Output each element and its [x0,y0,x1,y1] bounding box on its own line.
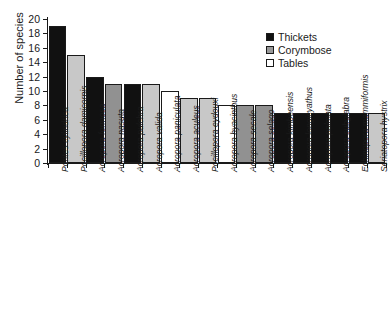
y-axis-tick [43,33,47,34]
chart-legend: ThicketsCorymboseTables [266,31,332,70]
x-axis-tick-label: Pocillopora eydouxi [211,97,220,172]
y-axis-tick [43,149,47,150]
x-axis-tick-label: Acropora pulchra [136,107,145,172]
y-axis-tick-label: 18 [16,28,40,39]
y-axis-tick [43,19,47,20]
legend-label: Tables [278,58,308,69]
y-axis-tick [43,48,47,49]
y-axis-tick-label: 4 [16,129,40,140]
x-axis-tick-label: Echinopora mammiformis [361,75,370,172]
legend-label: Corymbose [278,45,332,56]
x-axis-tick-label: Acropora valida [155,112,164,172]
x-axis-tick-label: Acropora paniculata [173,96,182,172]
x-axis-tick-label: Acropora longicyathus [305,87,314,172]
y-axis-tick [43,120,47,121]
y-axis-tick [43,62,47,63]
x-axis-tick-label: Pocillopora damicornis [80,86,89,172]
y-axis-tick-label: 16 [16,43,40,54]
x-axis-tick-label: Acropora kimbeensis [286,92,295,172]
x-axis-tick-label: Seriatopora hystrix [380,100,389,172]
y-axis-tick-label: 20 [16,14,40,25]
y-axis-tick [43,105,47,106]
legend-label: Thickets [278,32,317,43]
x-axis-tick-label: Acropora secale [249,110,258,172]
y-axis-tick-label: 6 [16,115,40,126]
legend-swatch-icon [266,59,274,67]
y-axis-tick-label: 2 [16,144,40,155]
x-axis-tick-label: Acropora palmata [324,104,333,172]
x-axis-tick-label: Acropora selago [267,109,276,172]
y-axis-tick [43,91,47,92]
x-axis-tick-label: Acropora aculeus [192,105,201,172]
y-axis-tick-label: 0 [16,158,40,169]
x-axis-tick-label: Acropora subglabra [342,97,351,172]
x-axis-tick-label: Porites cylindrica [61,107,70,172]
legend-item: Tables [266,57,332,69]
x-axis-tick [48,164,49,168]
y-axis-tick [43,77,47,78]
x-axis-tick-label: Acropora nasuta [117,109,126,172]
y-axis-tick-label: 12 [16,72,40,83]
legend-swatch-icon [266,46,274,54]
legend-swatch-icon [266,33,274,41]
y-axis-tick-label: 10 [16,86,40,97]
y-axis-tick-label: 14 [16,57,40,68]
y-axis-tick [43,163,47,164]
x-axis-tick-label: Acropora hyacinthus [230,94,239,172]
y-axis-tick [43,134,47,135]
y-axis-tick-label: 8 [16,100,40,111]
legend-item: Thickets [266,31,332,43]
legend-item: Corymbose [266,44,332,56]
x-axis-tick-label: Acropora formosa [98,104,107,172]
bar-chart-figure: Number of species 20181614121086420 Pori… [0,0,392,316]
